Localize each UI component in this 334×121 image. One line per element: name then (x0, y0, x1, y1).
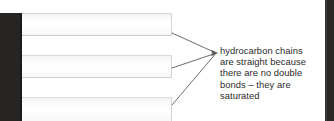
callout-text: hydrocarbon chains are straight because … (220, 45, 320, 101)
arrowhead-icon (212, 50, 218, 56)
hydrocarbon-chain-bar-3 (22, 97, 172, 121)
page-left-gutter (0, 13, 22, 121)
leader-line-2 (172, 54, 215, 69)
leader-line-1 (172, 33, 215, 53)
figure-canvas: hydrocarbon chains are straight because … (0, 0, 334, 121)
page-right-gutter (325, 0, 334, 121)
leader-line-3 (172, 55, 215, 106)
hydrocarbon-chain-bar-1 (22, 13, 172, 36)
hydrocarbon-chain-bar-2 (22, 55, 172, 78)
